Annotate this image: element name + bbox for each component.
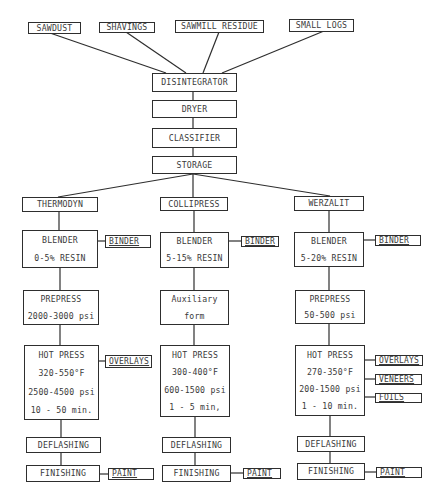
paint-label: PAINT — [112, 470, 137, 478]
auxiliary-detail: form — [184, 312, 205, 320]
step-dryer: DRYER — [152, 100, 237, 118]
prepress-title: PREPRESS — [40, 295, 81, 303]
figure-caption-cutoff: ﬁ f t lil b ill d — [130, 497, 442, 504]
werzalit-foils: FOILS — [375, 393, 422, 403]
hot-press-temp: 320-550°F — [38, 369, 84, 377]
thermodyn-blender: BLENDER0-5% RESIN — [22, 230, 98, 268]
werzalit-blender: BLENDER5-20% RESIN — [294, 232, 364, 267]
binder-label: BINDER — [379, 237, 409, 245]
collipress-deflashing: DEFLASHING — [162, 437, 231, 453]
process-label: COLLIPRESS — [168, 200, 219, 208]
thermodyn-prepress: PREPRESS2000-3000 psi — [23, 290, 99, 325]
hot-press-time: 1 - 10 min. — [302, 402, 358, 410]
prepress-pressure: 50-500 psi — [304, 311, 355, 319]
hot-press-pressure: 600-1500 psi — [164, 386, 226, 394]
finishing-label: FINISHING — [40, 469, 86, 477]
overlays-label: OVERLAYS — [379, 357, 419, 365]
werzalit-finishing: FINISHING — [297, 463, 365, 480]
werzalit-overlays: OVERLAYS — [375, 355, 423, 366]
blender-title: BLENDER — [311, 237, 347, 245]
resin-range: 5-15% RESIN — [166, 254, 222, 262]
thermodyn-hot-press: HOT PRESS320-550°F2500-4500 psi10 - 50 m… — [24, 345, 99, 420]
step-disintegrator: DISINTEGRATOR — [152, 73, 237, 92]
raw-material-label: SAWMILL RESIDUE — [181, 22, 258, 30]
collipress-hot-press: HOT PRESS300-400°F600-1500 psi1 - 5 min, — [160, 345, 230, 417]
collipress-blender: BLENDER5-15% RESIN — [160, 232, 229, 268]
raw-material-sawmill-residue: SAWMILL RESIDUE — [175, 20, 264, 33]
resin-range: 0-5% RESIN — [34, 254, 85, 262]
hot-press-title: HOT PRESS — [38, 351, 84, 359]
raw-material-small-logs: SMALL LOGS — [289, 19, 354, 32]
veneers-label: VENEERS — [379, 376, 414, 384]
thermodyn-deflashing: DEFLASHING — [26, 437, 101, 453]
resin-range: 5-20% RESIN — [301, 254, 357, 262]
paint-label: PAINT — [380, 469, 405, 477]
step-label: STORAGE — [177, 161, 213, 169]
thermodyn-paint: PAINT — [108, 468, 154, 480]
raw-material-label: SMALL LOGS — [296, 21, 347, 29]
foils-label: FOILS — [379, 394, 404, 402]
process-label: THERMODYN — [37, 200, 83, 208]
hot-press-title: HOT PRESS — [307, 351, 353, 359]
step-classifier: CLASSIFIER — [152, 128, 237, 148]
thermodyn-finishing: FINISHING — [26, 465, 100, 482]
deflashing-label: DEFLASHING — [38, 441, 89, 449]
hot-press-temp: 300-400°F — [172, 368, 218, 376]
hot-press-time: 1 - 5 min, — [169, 403, 220, 411]
finishing-label: FINISHING — [173, 469, 219, 477]
finishing-label: FINISHING — [308, 467, 354, 475]
deflashing-label: DEFLASHING — [305, 440, 356, 448]
raw-material-shavings: SHAVINGS — [99, 22, 155, 33]
overlays-label: OVERLAYS — [109, 358, 149, 366]
step-label: DRYER — [182, 105, 208, 113]
hot-press-pressure: 200-1500 psi — [299, 385, 361, 393]
auxiliary-title: Auxiliary — [171, 295, 217, 303]
werzalit-paint: PAINT — [376, 467, 422, 478]
binder-label: BINDER — [109, 238, 139, 246]
werzalit-deflashing: DEFLASHING — [297, 436, 365, 452]
collipress-binder: BINDER — [241, 236, 279, 247]
process-label: WERZALIT — [308, 199, 349, 207]
paint-label: PAINT — [247, 470, 272, 478]
raw-material-label: SHAVINGS — [106, 23, 147, 31]
step-label: CLASSIFIER — [169, 134, 220, 142]
hot-press-title: HOT PRESS — [172, 351, 218, 359]
raw-material-label: SAWDUST — [37, 24, 73, 32]
thermodyn-overlays: OVERLAYS — [105, 355, 152, 368]
step-storage: STORAGE — [152, 156, 237, 174]
hot-press-pressure: 2500-4500 psi — [28, 388, 95, 396]
raw-material-sawdust: SAWDUST — [28, 22, 81, 34]
prepress-pressure: 2000-3000 psi — [28, 312, 95, 320]
collipress-finishing: FINISHING — [162, 465, 231, 482]
binder-label: BINDER — [245, 238, 275, 246]
deflashing-label: DEFLASHING — [171, 441, 222, 449]
hot-press-temp: 270-350°F — [307, 368, 353, 376]
werzalit-binder: BINDER — [375, 235, 421, 246]
process-werzalit: WERZALIT — [294, 196, 364, 211]
prepress-title: PREPRESS — [309, 295, 350, 303]
thermodyn-binder: BINDER — [105, 235, 151, 248]
collipress-auxiliary-form: Auxiliaryform — [160, 290, 229, 325]
process-thermodyn: THERMODYN — [22, 197, 98, 212]
step-label: DISINTEGRATOR — [161, 78, 228, 86]
blender-title: BLENDER — [177, 237, 213, 245]
werzalit-veneers: VENEERS — [375, 374, 422, 385]
werzalit-prepress: PREPRESS50-500 psi — [295, 290, 365, 324]
werzalit-hot-press: HOT PRESS270-350°F200-1500 psi1 - 10 min… — [295, 345, 365, 416]
collipress-paint: PAINT — [243, 468, 281, 479]
blender-title: BLENDER — [42, 236, 78, 244]
hot-press-time: 10 - 50 min. — [31, 406, 93, 414]
process-collipress: COLLIPRESS — [160, 197, 228, 211]
